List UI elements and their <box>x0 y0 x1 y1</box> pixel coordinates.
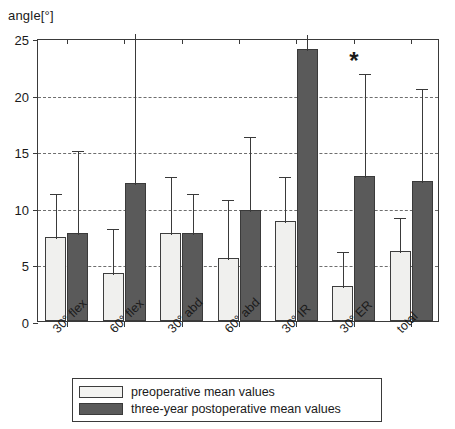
legend-item-postoperative: three-year postoperative mean values <box>79 400 375 417</box>
error-bar-cap <box>107 229 119 230</box>
bar-preoperative-30-abd <box>160 233 181 321</box>
y-tick-label: 10 <box>15 202 29 217</box>
light-square-swatch <box>79 386 123 398</box>
y-tick-label: 5 <box>22 259 29 274</box>
dark-square-swatch <box>79 403 123 415</box>
bar-preoperative-30-flex <box>45 237 66 321</box>
plot-area: 0510152025 * <box>37 39 439 322</box>
y-tick-label: 0 <box>22 316 29 331</box>
error-bar-cap <box>222 200 234 201</box>
y-tick-label: 25 <box>15 33 29 48</box>
error-bar-whisker <box>56 194 57 239</box>
error-bar-whisker <box>78 151 79 235</box>
error-bar-whisker <box>193 194 194 235</box>
legend-label: preoperative mean values <box>131 385 275 399</box>
error-bar-whisker <box>400 218 401 253</box>
error-bar-whisker <box>307 35 308 51</box>
error-bar-whisker <box>365 74 366 178</box>
chart-legend: preoperative mean values three-year post… <box>72 378 382 422</box>
y-tick-label: 15 <box>15 146 29 161</box>
x-axis-labels: 30° flex60° flex30° abd60° abd30° IR30° … <box>37 322 439 382</box>
bar-series-layer <box>38 40 438 321</box>
error-bar-whisker <box>113 229 114 275</box>
legend-label: three-year postoperative mean values <box>131 402 341 416</box>
y-axis-title: angle[°] <box>8 8 54 23</box>
error-bar-whisker <box>285 177 286 223</box>
error-bar-whisker <box>228 200 229 260</box>
error-bar-cap <box>394 218 406 219</box>
error-bar-whisker <box>171 177 172 235</box>
error-bar-cap <box>337 252 349 253</box>
y-tick-label: 20 <box>15 89 29 104</box>
error-bar-cap <box>50 194 62 195</box>
error-bar-cap <box>359 74 371 75</box>
legend-item-preoperative: preoperative mean values <box>79 383 375 400</box>
error-bar-cap <box>72 151 84 152</box>
error-bar-whisker <box>422 89 423 183</box>
chart-figure: angle[°] 0510152025 * 30° flex60° flex30… <box>0 0 455 429</box>
error-bar-cap <box>416 89 428 90</box>
error-bar-cap <box>165 177 177 178</box>
bar-postoperative-30-ir <box>297 49 318 321</box>
bar-preoperative-30-ir <box>275 221 296 321</box>
error-bar-cap <box>187 194 199 195</box>
error-bar-whisker <box>135 34 136 185</box>
error-bar-cap <box>244 137 256 138</box>
error-bar-cap <box>279 177 291 178</box>
error-bar-whisker <box>250 137 251 212</box>
significance-asterisk: * <box>349 49 358 73</box>
error-bar-whisker <box>343 252 344 288</box>
bar-postoperative-total <box>412 181 433 321</box>
